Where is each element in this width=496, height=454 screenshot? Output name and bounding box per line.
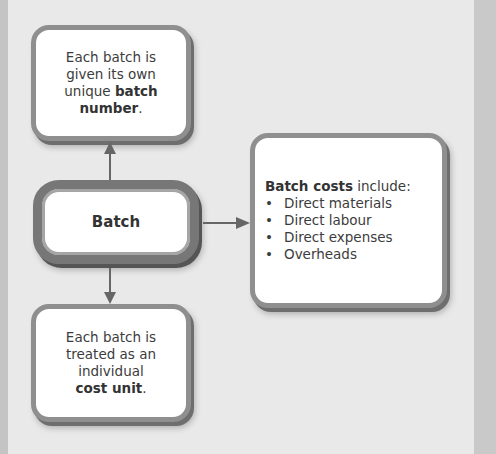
list-item-label: Direct materials: [284, 195, 392, 212]
list-item: •Overheads: [265, 246, 411, 263]
batch-costs-heading: Batch costs include:: [265, 178, 411, 195]
arrow-right-icon: [236, 217, 250, 229]
top-suffix: .: [138, 100, 142, 116]
arrow-up-line: [109, 152, 111, 180]
bottom-line-1: Each batch is: [66, 329, 156, 345]
list-item: •Direct labour: [265, 212, 411, 229]
bottom-suffix: .: [142, 380, 146, 396]
list-item-label: Overheads: [284, 246, 357, 263]
left-edge-strip: [0, 0, 8, 454]
top-bold-batch: batch: [115, 83, 158, 99]
bottom-line-3: individual: [78, 363, 144, 379]
batch-costs-list: •Direct materials •Direct labour •Direct…: [265, 195, 411, 263]
list-item-label: Direct expenses: [284, 229, 393, 246]
batch-number-box: Each batch is given its own unique batch…: [31, 25, 191, 141]
heading-bold: Batch costs: [265, 178, 353, 194]
arrow-right-line: [203, 222, 239, 224]
bottom-bold-cost-unit: cost unit: [75, 380, 142, 396]
batch-costs-box: Batch costs include: •Direct materials •…: [250, 133, 447, 308]
cost-unit-box: Each batch is treated as an individual c…: [31, 304, 191, 422]
right-edge-strip: [474, 0, 496, 454]
list-item: •Direct expenses: [265, 229, 411, 246]
batch-box: Batch: [33, 180, 199, 264]
batch-label: Batch: [92, 214, 140, 231]
top-line-3: unique: [64, 83, 115, 99]
list-item-label: Direct labour: [284, 212, 372, 229]
bullet-icon: •: [265, 229, 284, 246]
bottom-line-2: treated as an: [66, 346, 156, 362]
bullet-icon: •: [265, 195, 284, 212]
list-item: •Direct materials: [265, 195, 411, 212]
bullet-icon: •: [265, 246, 284, 263]
top-line-1: Each batch is: [66, 49, 156, 65]
bullet-icon: •: [265, 212, 284, 229]
top-bold-number: number: [79, 100, 138, 116]
arrow-down-icon: [104, 292, 116, 304]
arrow-up-icon: [104, 142, 116, 154]
heading-rest: include:: [353, 178, 411, 194]
arrow-down-line: [109, 268, 111, 294]
top-line-2: given its own: [66, 66, 156, 82]
